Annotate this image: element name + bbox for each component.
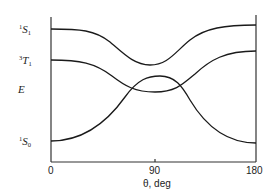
x-tick-label-90: 90 [149, 165, 161, 176]
t1-curve [51, 51, 256, 92]
x-axis-label: θ, deg [143, 178, 171, 189]
state-label-s1: 1S1 [19, 23, 31, 36]
x-tick-label-180: 180 [246, 165, 263, 176]
s0-curve [51, 76, 256, 143]
x-tick-label-0: 0 [48, 165, 54, 176]
y-axis-label: E [17, 83, 25, 95]
state-label-s0: 1S0 [19, 135, 31, 148]
state-label-t1: 3T1 [19, 54, 32, 67]
s1-curve [51, 25, 256, 65]
energy-diagram: 1S1 3T1 1S0 E 0 90 180 θ, deg [0, 0, 271, 193]
